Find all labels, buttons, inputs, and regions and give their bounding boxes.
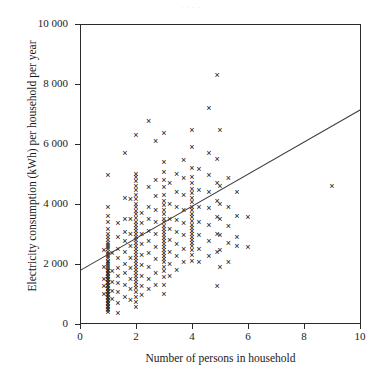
y-axis-label: Electricity consumption (kWh) per househ…: [26, 16, 38, 316]
x-axis-label: Number of persons in household: [80, 352, 361, 364]
y-tick-label: 6 000: [20, 137, 68, 149]
plot-frame-right: [360, 24, 361, 325]
x-tick-mark: [248, 324, 249, 329]
y-tick-mark: [75, 204, 80, 205]
y-tick-mark: [75, 84, 80, 85]
y-tick-mark: [75, 144, 80, 145]
x-tick-label: 0: [65, 330, 95, 342]
y-tick-label: 10 000: [20, 17, 68, 29]
x-tick-mark: [80, 324, 81, 329]
x-tick-label: 2: [121, 330, 151, 342]
x-tick-mark: [136, 324, 137, 329]
y-tick-mark: [75, 24, 80, 25]
plot-area: [80, 24, 360, 324]
plot-frame-top: [80, 24, 361, 25]
x-tick-label: 4: [177, 330, 207, 342]
figure-title-remnant: . . . .: [0, 0, 381, 10]
x-tick-label: 6: [233, 330, 263, 342]
x-tick-mark: [304, 324, 305, 329]
x-tick-mark: [360, 324, 361, 329]
y-tick-label: 0: [20, 317, 68, 329]
y-tick-label: 8 000: [20, 77, 68, 89]
scatter-plot-figure: . . . . Electricity consumption (kWh) pe…: [0, 0, 381, 379]
x-tick-mark: [192, 324, 193, 329]
x-tick-label: 10: [345, 330, 375, 342]
y-tick-mark: [75, 264, 80, 265]
x-tick-label: 8: [289, 330, 319, 342]
y-tick-label: 4 000: [20, 197, 68, 209]
y-tick-label: 2 000: [20, 257, 68, 269]
